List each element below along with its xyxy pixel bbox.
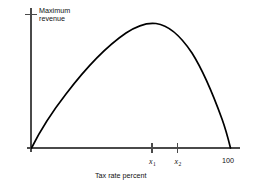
x2-subscript: 2: [179, 161, 182, 167]
y-axis-label-line2: revenue: [39, 14, 65, 23]
x-tick-label-100: 100: [222, 156, 234, 165]
revenue-curve: [32, 23, 231, 148]
x-tick-label-x2: x2: [174, 157, 182, 167]
x-tick-label-x1: x1: [148, 157, 156, 167]
laffer-curve-figure: Maximum revenue x1 x2 100 Tax rate perce…: [0, 0, 254, 184]
chart-canvas: Maximum revenue x1 x2 100 Tax rate perce…: [0, 0, 254, 184]
x1-subscript: 1: [153, 161, 156, 167]
x-axis-title: Tax rate percent: [95, 171, 147, 180]
